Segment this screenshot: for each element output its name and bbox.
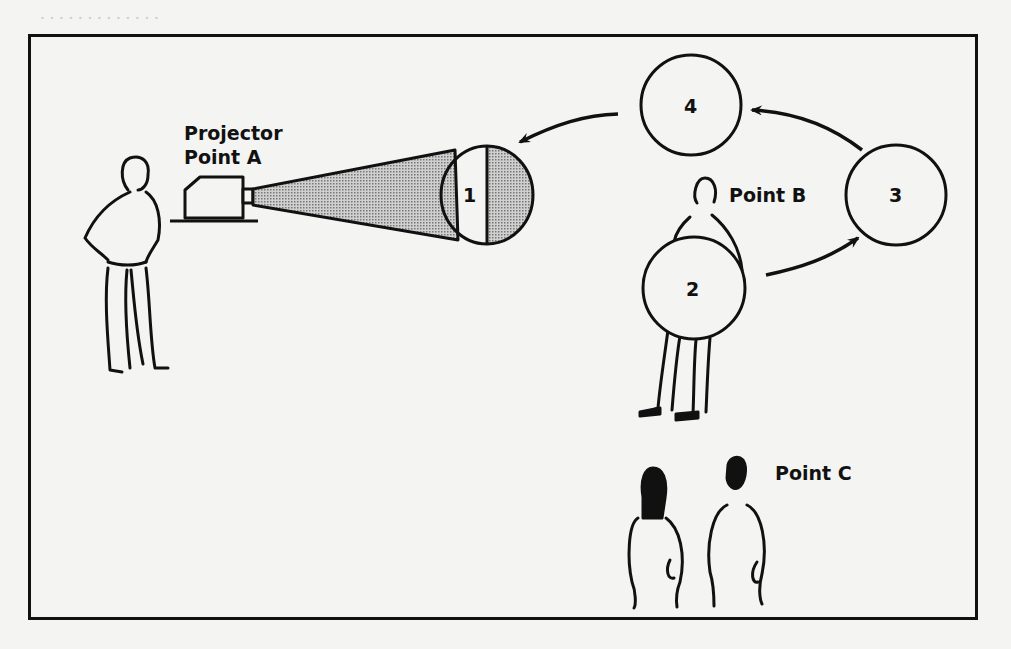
standing-man-figure	[85, 157, 168, 372]
point-c-label: Point C	[775, 462, 852, 485]
point-b-label: Point B	[729, 184, 806, 207]
arrow-2-to-3	[766, 238, 858, 275]
projector-icon	[170, 177, 258, 221]
light-beam	[253, 150, 458, 240]
position-2-number: 2	[686, 278, 699, 301]
diagram-canvas	[0, 0, 1011, 649]
projector-label: Projector	[184, 122, 283, 145]
arrow-3-to-4	[752, 110, 862, 150]
position-3-number: 3	[889, 184, 902, 207]
arrow-4-to-1	[520, 114, 618, 142]
point-c-couple-figure	[629, 457, 764, 608]
position-1-number: 1	[463, 184, 476, 207]
position-4-number: 4	[684, 95, 697, 118]
point-a-label: Point A	[184, 146, 261, 169]
